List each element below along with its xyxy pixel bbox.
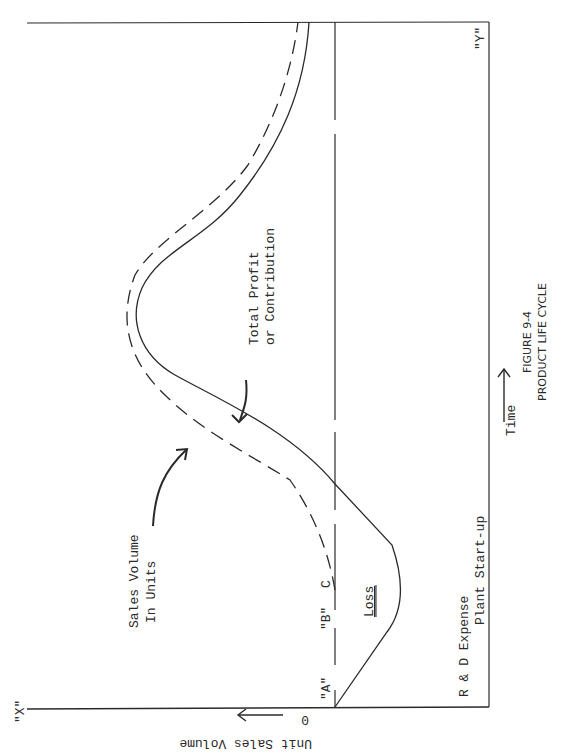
origin-label: 0	[301, 712, 309, 727]
marker-c-label: C	[319, 580, 334, 588]
unit-sales-volume-label: Unit Sales Volume	[179, 736, 312, 751]
sales-arrow-icon	[153, 449, 187, 526]
time-label: Time	[504, 405, 519, 436]
unit-sales-arrow-icon	[238, 709, 283, 721]
marker-b-label: "B"	[319, 607, 334, 630]
figure-number: FIGURE 9-4	[521, 311, 534, 373]
profit-label-line2: or Contribution	[263, 228, 278, 345]
marker-a-label: "A"	[319, 677, 334, 700]
sales-label-line1: Sales Volume	[127, 534, 142, 628]
sales-label-line2: In Units	[144, 561, 159, 623]
y-end-label: "Y"	[473, 27, 488, 50]
loss-label: Loss	[362, 586, 377, 617]
plant-startup-label: Plant Start-up	[473, 516, 488, 625]
unit-sales-axis-line	[27, 707, 489, 709]
sales-volume-curve	[127, 22, 335, 590]
x-end-label: "X"	[13, 700, 28, 723]
product-life-cycle-figure: Total Profit or Contribution Sales Volum…	[0, 0, 572, 753]
y-axis-top-line	[27, 22, 489, 23]
figure-title: PRODUCT LIFE CYCLE	[536, 283, 549, 401]
profit-arrow-icon	[232, 380, 247, 422]
rd-expense-label: R & D Expense	[457, 596, 472, 697]
profit-label-line1: Total Profit	[247, 251, 262, 345]
